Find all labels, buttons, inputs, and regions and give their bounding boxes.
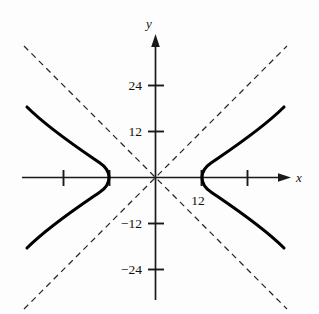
hyperbola-figure: y x 24 12 −12 −24 12 (0, 0, 319, 314)
y-tick-label-neg12: −12 (121, 216, 142, 231)
y-tick-label-24: 24 (129, 78, 143, 93)
x-axis-arrowhead (278, 173, 291, 182)
hyperbola-plot: y x 24 12 −12 −24 12 (0, 0, 319, 314)
y-axis-label: y (144, 16, 152, 31)
x-axis (22, 173, 291, 182)
x-axis-label: x (295, 170, 302, 185)
y-axis (151, 34, 160, 300)
y-tick-label-neg24: −24 (121, 262, 142, 277)
x-tick-label-12: 12 (191, 193, 205, 208)
y-tick-label-12: 12 (129, 124, 143, 139)
y-axis-arrowhead (151, 34, 160, 47)
